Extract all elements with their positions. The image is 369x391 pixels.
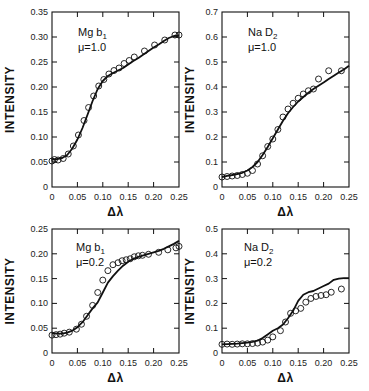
x-tick-label: 0.15 [289, 358, 307, 368]
observed-point [249, 168, 255, 174]
x-tick-label: 0.25 [340, 358, 358, 368]
x-tick-label: 0 [49, 192, 54, 202]
x-tick-label: 0 [219, 358, 224, 368]
y-tick-label: 0.7 [205, 7, 218, 17]
x-tick-label: 0.10 [94, 192, 112, 202]
y-tick-label: 0.25 [30, 57, 48, 67]
mu-label: μ=0.2 [76, 256, 104, 268]
x-axis-title: Δλ [277, 205, 293, 219]
y-axis-title: INTENSITY [183, 66, 197, 133]
x-tick-label: 0.15 [119, 358, 137, 368]
x-tick-label: 0.20 [315, 358, 333, 368]
x-tick-label: 0.10 [264, 192, 282, 202]
x-tick-label: 0.25 [340, 192, 358, 202]
panel-na-d2-mu-0-2: 00.050.100.150.200.2500.10.20.30.40.5ΔλI… [183, 224, 358, 385]
y-tick-label: 0.15 [30, 107, 48, 117]
panel-mg-b1-mu-1-0: 00.050.100.150.200.2500.050.100.150.200.… [3, 7, 188, 219]
y-tick-label: 0.05 [30, 323, 48, 333]
x-tick-label: 0.25 [170, 192, 188, 202]
x-tick-label: 0 [219, 192, 224, 202]
mu-label: μ=1.0 [78, 41, 106, 53]
observed-point [95, 289, 101, 295]
x-tick-label: 0.15 [119, 192, 137, 202]
y-axis-title: INTENSITY [183, 257, 197, 324]
x-tick-label: 0.15 [289, 192, 307, 202]
observed-point [123, 257, 129, 263]
y-tick-label: 0.4 [205, 82, 218, 92]
y-tick-label: 0.20 [30, 82, 48, 92]
y-tick-label: 0.5 [205, 224, 218, 234]
x-tick-label: 0.20 [145, 192, 163, 202]
x-tick-label: 0.10 [94, 358, 112, 368]
observed-point [316, 76, 322, 82]
x-tick-label: 0.25 [170, 358, 188, 368]
y-tick-label: 0.3 [205, 107, 218, 117]
y-tick-label: 0.1 [205, 323, 218, 333]
y-tick-label: 0.5 [205, 57, 218, 67]
observed-point [298, 305, 304, 311]
observed-point [326, 68, 332, 74]
observed-point [328, 289, 334, 295]
y-tick-label: 0.05 [30, 157, 48, 167]
line-label: Mg b1 [76, 241, 105, 256]
y-tick-label: 0 [213, 348, 218, 358]
observed-point [105, 268, 111, 274]
observed-point [290, 100, 296, 106]
mu-label: μ=1.0 [248, 41, 276, 53]
x-tick-label: 0.20 [315, 192, 333, 202]
y-tick-label: 0.2 [205, 298, 218, 308]
line-label: Mg b1 [78, 26, 107, 41]
y-axis-title: INTENSITY [3, 66, 17, 133]
plot-frame [222, 229, 349, 353]
observed-point [100, 277, 106, 283]
figure-canvas: 00.050.100.150.200.2500.050.100.150.200.… [0, 0, 369, 391]
plot-frame [222, 12, 349, 187]
y-tick-label: 0.6 [205, 32, 218, 42]
plot-frame [52, 12, 179, 187]
y-tick-label: 0.10 [30, 132, 48, 142]
computed-curve [222, 278, 349, 344]
y-tick-label: 0 [213, 182, 218, 192]
y-tick-label: 0.20 [30, 249, 48, 259]
observed-point [285, 106, 291, 112]
observed-point [277, 328, 283, 334]
mu-label: μ=0.2 [244, 256, 272, 268]
computed-curve [52, 36, 179, 160]
y-tick-label: 0.30 [30, 32, 48, 42]
y-tick-label: 0 [43, 182, 48, 192]
y-tick-label: 0.10 [30, 298, 48, 308]
computed-curve [222, 66, 349, 177]
x-tick-label: 0.20 [145, 358, 163, 368]
line-label: Na D2 [248, 26, 278, 41]
x-axis-title: Δλ [277, 371, 293, 385]
line-label: Na D2 [244, 241, 274, 256]
x-tick-label: 0 [49, 358, 54, 368]
observed-point [270, 334, 276, 340]
y-tick-label: 0.1 [205, 157, 218, 167]
x-tick-label: 0.05 [69, 358, 87, 368]
x-tick-label: 0.05 [239, 358, 257, 368]
y-axis-title: INTENSITY [3, 257, 17, 324]
x-tick-label: 0.10 [264, 358, 282, 368]
observed-point [131, 54, 137, 60]
y-tick-label: 0.2 [205, 132, 218, 142]
y-tick-label: 0 [43, 348, 48, 358]
x-axis-title: Δλ [107, 371, 123, 385]
y-tick-label: 0.25 [30, 224, 48, 234]
y-tick-label: 0.3 [205, 274, 218, 284]
x-tick-label: 0.05 [239, 192, 257, 202]
x-tick-label: 0.05 [69, 192, 87, 202]
y-tick-label: 0.15 [30, 274, 48, 284]
panel-na-d2-mu-1-0: 00.050.100.150.200.2500.10.20.30.40.50.6… [183, 7, 358, 219]
y-tick-label: 0.35 [30, 7, 48, 17]
observed-point [338, 286, 344, 292]
x-axis-title: Δλ [107, 205, 123, 219]
panel-mg-b1-mu-0-2: 00.050.100.150.200.2500.050.100.150.200.… [3, 224, 188, 385]
y-tick-label: 0.4 [205, 249, 218, 259]
